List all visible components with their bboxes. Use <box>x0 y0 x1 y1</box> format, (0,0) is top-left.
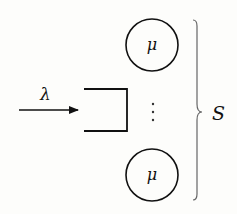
arrival-rate-label: λ <box>39 84 51 104</box>
right-brace <box>193 20 202 200</box>
ellipsis-dots <box>152 103 154 121</box>
service-rate-label: μ <box>147 165 157 184</box>
server-bottom: μ <box>126 149 178 201</box>
service-rate-label: μ <box>147 35 157 54</box>
queue-diagram: λ μ μ S <box>0 0 237 214</box>
server-count-label: S <box>212 102 225 124</box>
queue-buffer <box>84 89 127 131</box>
server-top: μ <box>126 19 178 71</box>
